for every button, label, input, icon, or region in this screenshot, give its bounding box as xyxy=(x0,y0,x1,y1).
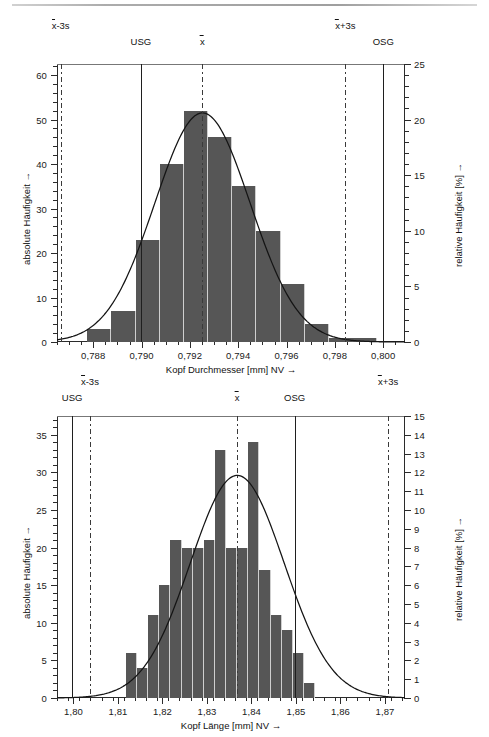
y-right-minor-tick xyxy=(404,142,409,143)
x-minor-tick xyxy=(117,342,118,345)
x-minor-tick xyxy=(154,342,155,345)
x-minor-tick xyxy=(323,342,324,345)
x-tick-label: 1,85 xyxy=(287,706,306,717)
marker-label-usg: USG xyxy=(62,392,83,403)
y-left-minor-tick xyxy=(53,630,58,631)
y-left-minor-tick xyxy=(53,226,58,227)
x-minor-tick xyxy=(246,698,247,701)
y-left-minor-tick xyxy=(53,653,58,654)
y-left-minor-tick xyxy=(53,495,58,496)
y-right-minor-tick xyxy=(404,97,409,98)
x-tick xyxy=(296,698,297,704)
y-right-tick xyxy=(404,64,411,65)
marker-label-xbar-plus-3s: x+3s xyxy=(378,376,398,387)
y-left-minor-tick xyxy=(53,289,58,290)
x-minor-tick xyxy=(226,342,227,345)
y-left-minor-tick xyxy=(53,306,58,307)
y-right-minor-tick xyxy=(404,153,409,154)
marker-label-usg: USG xyxy=(131,36,152,47)
x-minor-tick xyxy=(402,698,403,701)
x-minor-tick xyxy=(146,698,147,701)
x-minor-tick xyxy=(224,698,225,701)
figure-page: 010203040506005101520250,7880,7900,7920,… xyxy=(0,0,489,737)
histogram-kopf-laenge: 0510152025303501234567891011121314151,80… xyxy=(0,372,489,732)
x-tick-label: 1,80 xyxy=(64,706,83,717)
y-right-minor-tick xyxy=(404,186,409,187)
plot-frame: 010203040506005101520250,7880,7900,7920,… xyxy=(57,64,405,342)
histogram-kopf-durchmesser: 010203040506005101520250,7880,7900,7920,… xyxy=(0,12,489,370)
y-left-minor-tick xyxy=(53,235,58,236)
y-right-tick xyxy=(404,342,411,343)
y-right-tick xyxy=(404,642,411,643)
x-tick-label: 0,796 xyxy=(274,350,298,361)
y-left-tick xyxy=(51,209,58,210)
y-right-minor-tick xyxy=(404,197,409,198)
x-minor-tick xyxy=(57,698,58,701)
y-right-tick-label: 15 xyxy=(414,411,425,422)
marker-label-xbar-plus-3s: x+3s xyxy=(335,20,355,31)
y-left-tick-label: 0 xyxy=(21,337,47,348)
y-left-tick-label: 50 xyxy=(21,114,47,125)
normal-distribution-curve xyxy=(57,416,405,698)
y-left-minor-tick xyxy=(53,324,58,325)
y-right-tick xyxy=(404,416,411,417)
y-right-tick-label: 3 xyxy=(414,636,419,647)
marker-line-usg xyxy=(141,64,142,342)
y-left-minor-tick xyxy=(53,615,58,616)
y-left-minor-tick xyxy=(53,502,58,503)
y-left-minor-tick xyxy=(53,563,58,564)
x-minor-tick xyxy=(313,698,314,701)
y-left-axis-title: absolute Häufigkeit → xyxy=(21,526,32,619)
x-minor-tick xyxy=(335,698,336,701)
x-minor-tick xyxy=(299,342,300,345)
y-right-tick xyxy=(404,491,411,492)
x-minor-tick xyxy=(347,342,348,345)
y-right-tick-label: 7 xyxy=(414,561,419,572)
y-left-minor-tick xyxy=(53,111,58,112)
y-left-minor-tick xyxy=(53,683,58,684)
y-left-minor-tick xyxy=(53,450,58,451)
x-minor-tick xyxy=(113,698,114,701)
y-right-minor-tick xyxy=(404,253,409,254)
y-left-minor-tick xyxy=(53,518,58,519)
x-minor-tick xyxy=(79,698,80,701)
x-minor-tick xyxy=(166,342,167,345)
y-right-tick xyxy=(404,548,411,549)
x-tick xyxy=(340,698,341,704)
y-left-tick xyxy=(51,435,58,436)
y-right-minor-tick xyxy=(404,275,409,276)
x-tick xyxy=(251,698,252,704)
x-minor-tick xyxy=(178,342,179,345)
y-right-tick-label: 0 xyxy=(414,693,419,704)
x-minor-tick xyxy=(214,342,215,345)
marker-line-xbar xyxy=(237,416,238,698)
y-left-tick-label: 5 xyxy=(21,655,47,666)
x-tick xyxy=(335,342,336,348)
x-minor-tick xyxy=(262,342,263,345)
y-right-tick xyxy=(404,454,411,455)
y-right-minor-tick xyxy=(404,75,409,76)
y-left-minor-tick xyxy=(53,66,58,67)
y-left-minor-tick xyxy=(53,593,58,594)
y-left-minor-tick xyxy=(53,155,58,156)
y-right-tick-label: 2 xyxy=(414,655,419,666)
y-right-tick xyxy=(404,120,411,121)
y-right-tick-label: 14 xyxy=(414,429,425,440)
y-left-minor-tick xyxy=(53,146,58,147)
y-right-tick xyxy=(404,566,411,567)
y-left-minor-tick xyxy=(53,217,58,218)
x-minor-tick xyxy=(357,698,358,701)
x-minor-tick xyxy=(213,698,214,701)
y-left-minor-tick xyxy=(53,525,58,526)
x-tick-label: 0,798 xyxy=(323,350,347,361)
y-left-tick-label: 10 xyxy=(21,292,47,303)
x-minor-tick xyxy=(257,698,258,701)
x-tick xyxy=(118,698,119,704)
x-tick-label: 1,83 xyxy=(198,706,217,717)
marker-label-osg: OSG xyxy=(284,392,305,403)
marker-label-xbar: x xyxy=(200,36,205,47)
x-minor-tick xyxy=(311,342,312,345)
x-tick xyxy=(287,342,288,348)
x-axis-title: Kopf Länge [mm] NV → xyxy=(181,720,281,731)
y-right-tick-label: 13 xyxy=(414,448,425,459)
